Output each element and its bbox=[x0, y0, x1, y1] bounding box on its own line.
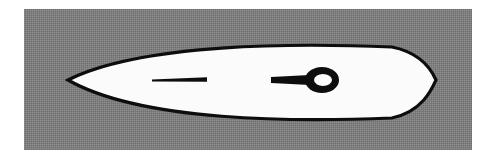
needle-eye-hole bbox=[314, 74, 332, 86]
figure-svg bbox=[0, 0, 497, 158]
figure-container bbox=[0, 0, 497, 158]
